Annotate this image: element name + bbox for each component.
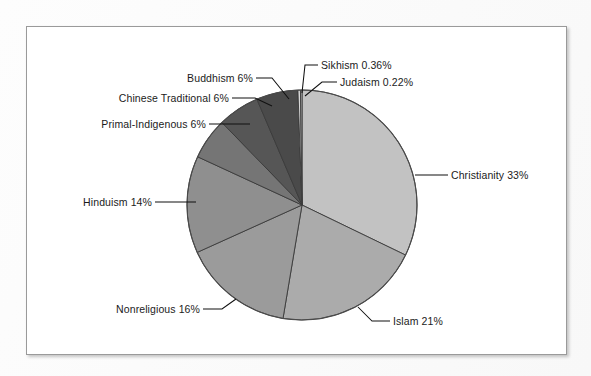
- leader-line-nonreligious: [203, 299, 236, 309]
- leader-line-sikhism: [302, 65, 318, 93]
- pie-chart: Sikhism 0.36% Judaism 0.22% Buddhism 6% …: [0, 0, 591, 376]
- leader-line-islam: [358, 307, 390, 321]
- slice-label-primal-indigenous: Primal-Indigenous 6%: [101, 118, 206, 130]
- slice-label-chinese-traditional: Chinese Traditional 6%: [119, 92, 229, 104]
- slice-label-judaism: Judaism 0.22%: [340, 76, 413, 88]
- slice-label-christianity: Christianity 33%: [451, 169, 528, 181]
- slice-label-buddhism: Buddhism 6%: [187, 72, 253, 84]
- slice-label-hinduism: Hinduism 14%: [83, 196, 152, 208]
- figure-canvas: Sikhism 0.36% Judaism 0.22% Buddhism 6% …: [0, 0, 591, 376]
- slice-label-islam: Islam 21%: [393, 315, 443, 327]
- slice-label-sikhism: Sikhism 0.36%: [321, 59, 392, 71]
- slice-label-nonreligious: Nonreligious 16%: [116, 303, 200, 315]
